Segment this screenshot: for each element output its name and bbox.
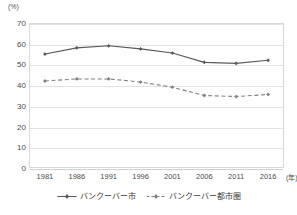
legend-marker-icon-1 xyxy=(57,192,77,201)
x-axis-unit-label: (年) xyxy=(286,172,297,182)
line-chart: (%) 010203040506070 19811986199119962001… xyxy=(0,0,297,215)
legend-label-2: バンクーバー都市圏 xyxy=(169,193,241,201)
x-tick-label-1981: 1981 xyxy=(37,172,54,181)
gridline-60 xyxy=(30,45,283,46)
x-tick-label-1996: 1996 xyxy=(132,172,149,181)
legend-item-2[interactable]: バンクーバー都市圏 xyxy=(146,192,241,201)
gridline-50 xyxy=(30,65,283,66)
x-tick-label-2006: 2006 xyxy=(196,172,213,181)
legend-marker-icon-2 xyxy=(146,192,166,201)
y-tick-label-40: 40 xyxy=(6,81,26,90)
y-axis-unit-label: (%) xyxy=(8,3,19,10)
plot-area xyxy=(29,23,284,168)
gridline-30 xyxy=(30,107,283,108)
x-tick-label-1986: 1986 xyxy=(68,172,85,181)
y-tick-label-10: 10 xyxy=(6,143,26,152)
x-tick-label-2016: 2016 xyxy=(260,172,277,181)
y-tick-label-30: 30 xyxy=(6,101,26,110)
x-tick-label-2001: 2001 xyxy=(164,172,181,181)
legend-item-1[interactable]: バンクーバー市 xyxy=(57,192,136,201)
gridline-20 xyxy=(30,128,283,129)
x-tick-label-2011: 2011 xyxy=(228,172,244,181)
gridline-70 xyxy=(30,24,283,25)
legend-label-1: バンクーバー市 xyxy=(80,193,136,201)
x-tick-label-1991: 1991 xyxy=(100,172,117,181)
gridline-40 xyxy=(30,86,283,87)
gridline-0 xyxy=(30,169,283,170)
y-tick-label-70: 70 xyxy=(6,19,26,28)
gridline-10 xyxy=(30,148,283,149)
y-tick-label-0: 0 xyxy=(6,164,26,173)
chart-legend: バンクーバー市バンクーバー都市圏 xyxy=(0,192,297,201)
y-tick-label-20: 20 xyxy=(6,122,26,131)
y-tick-label-60: 60 xyxy=(6,39,26,48)
y-tick-label-50: 50 xyxy=(6,60,26,69)
